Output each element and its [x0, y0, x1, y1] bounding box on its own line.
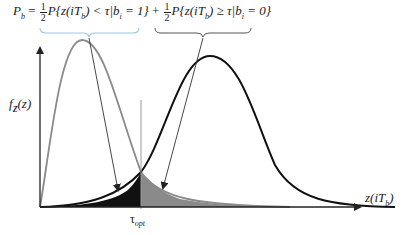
arrow-term-1: [89, 38, 118, 190]
threshold-label: τopt: [130, 212, 145, 228]
brace-term-2: [155, 28, 251, 37]
pdf-diagram: [0, 0, 415, 235]
shaded-region-gray: [141, 172, 290, 207]
x-axis-label: z(iTb): [365, 190, 394, 208]
y-axis-label: fZ(z): [9, 96, 31, 114]
right-pdf-curve: [40, 56, 395, 207]
brace-term-1: [40, 28, 139, 37]
